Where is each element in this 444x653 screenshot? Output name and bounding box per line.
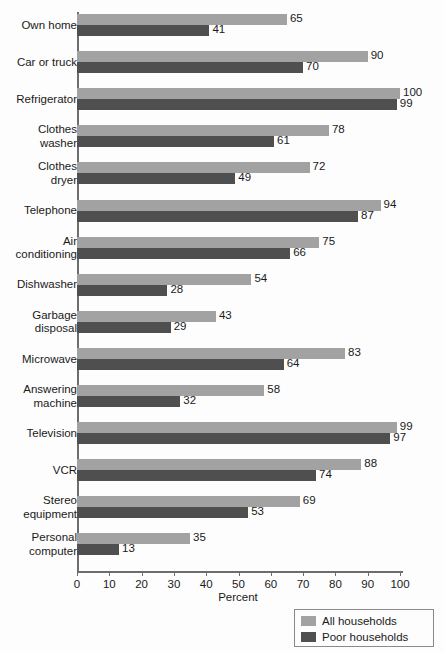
bar-value-label: 41	[212, 24, 225, 35]
bar-poor-households	[77, 99, 397, 110]
bar-value-label: 87	[361, 210, 374, 221]
x-tick-80	[335, 571, 336, 576]
bar-row: Clothes washer7861	[0, 125, 444, 147]
bar-row: Refrigerator10099	[0, 88, 444, 110]
category-label: Air conditioning	[16, 235, 77, 262]
bar-all-households	[77, 162, 310, 173]
bar-value-label: 75	[322, 236, 335, 247]
bar-value-label: 28	[170, 284, 183, 295]
bar-all-households	[77, 51, 368, 62]
legend-label-all-households: All households	[322, 615, 397, 627]
bar-poor-households	[77, 173, 235, 184]
category-label: Own home	[21, 19, 77, 33]
bar-all-households	[77, 14, 287, 25]
bar-poor-households	[77, 507, 248, 518]
x-tick-40	[206, 571, 207, 576]
bar-value-label: 94	[384, 199, 397, 210]
x-axis-line	[77, 571, 403, 573]
bar-all-households	[77, 88, 400, 99]
x-tick-label-0: 0	[74, 578, 80, 590]
bar-poor-households	[77, 322, 171, 333]
bar-value-label: 90	[371, 50, 384, 61]
bar-value-label: 61	[277, 135, 290, 146]
bar-poor-households	[77, 544, 119, 555]
category-label: Stereo equipment	[23, 494, 77, 521]
category-label: Clothes washer	[38, 123, 77, 150]
bar-value-label: 99	[400, 98, 413, 109]
bar-value-label: 88	[364, 458, 377, 469]
category-label: Garbage disposal	[32, 309, 77, 336]
bar-poor-households	[77, 359, 284, 370]
bar-row: Television9997	[0, 422, 444, 444]
bar-row: Clothes dryer7249	[0, 162, 444, 184]
bar-value-label: 58	[267, 384, 280, 395]
x-tick-20	[142, 571, 143, 576]
category-label: Clothes dryer	[38, 160, 77, 187]
x-tick-label-100: 100	[390, 578, 409, 590]
category-label: Personal computer	[29, 531, 77, 558]
bar-value-label: 69	[303, 495, 316, 506]
x-tick-0	[77, 571, 78, 576]
legend-item-poor-households: Poor households	[301, 629, 429, 645]
bar-chart: 0102030405060708090100 Percent Own home6…	[0, 0, 444, 653]
x-tick-label-60: 60	[264, 578, 277, 590]
bar-row: Dishwasher5428	[0, 274, 444, 296]
x-tick-10	[109, 571, 110, 576]
bar-poor-households	[77, 248, 290, 259]
x-tick-label-90: 90	[361, 578, 374, 590]
x-tick-60	[271, 571, 272, 576]
bar-poor-households	[77, 25, 209, 36]
bar-poor-households	[77, 211, 358, 222]
category-label: Television	[27, 427, 78, 441]
legend-swatch-all-households	[301, 616, 316, 626]
x-tick-label-10: 10	[103, 578, 116, 590]
x-tick-100	[400, 571, 401, 576]
bar-poor-households	[77, 62, 303, 73]
bar-row: Telephone9487	[0, 200, 444, 222]
bar-value-label: 29	[174, 321, 187, 332]
category-label: VCR	[53, 464, 77, 478]
x-tick-label-80: 80	[329, 578, 342, 590]
category-label: Dishwasher	[17, 278, 77, 292]
x-tick-90	[368, 571, 369, 576]
legend-swatch-poor-households	[301, 632, 316, 642]
x-tick-label-50: 50	[232, 578, 245, 590]
bar-value-label: 54	[254, 273, 267, 284]
bar-all-households	[77, 422, 397, 433]
bar-row: Own home6541	[0, 14, 444, 36]
bar-poor-households	[77, 470, 316, 481]
bar-row: VCR8874	[0, 459, 444, 481]
x-axis-title: Percent	[218, 591, 258, 603]
x-tick-70	[303, 571, 304, 576]
chart-legend: All households Poor households	[294, 609, 434, 647]
bar-all-households	[77, 274, 251, 285]
bar-row: Garbage disposal4329	[0, 311, 444, 333]
category-label: Telephone	[24, 204, 77, 218]
bar-row: Microwave8364	[0, 348, 444, 370]
bar-all-households	[77, 348, 345, 359]
bar-row: Stereo equipment6953	[0, 496, 444, 518]
bar-poor-households	[77, 136, 274, 147]
category-label: Refrigerator	[16, 93, 77, 107]
bar-value-label: 78	[332, 124, 345, 135]
bar-value-label: 35	[193, 532, 206, 543]
bar-value-label: 64	[287, 358, 300, 369]
bar-all-households	[77, 311, 216, 322]
bar-value-label: 66	[293, 247, 306, 258]
bar-value-label: 74	[319, 469, 332, 480]
category-label: Microwave	[22, 353, 77, 367]
bar-value-label: 53	[251, 506, 264, 517]
legend-item-all-households: All households	[301, 613, 429, 629]
bar-all-households	[77, 125, 329, 136]
bar-row: Air conditioning7566	[0, 237, 444, 259]
bar-value-label: 43	[219, 310, 232, 321]
bar-row: Car or truck9070	[0, 51, 444, 73]
bar-value-label: 65	[290, 13, 303, 24]
bar-value-label: 13	[122, 543, 135, 554]
category-label: Answering machine	[23, 383, 77, 410]
bar-all-households	[77, 385, 264, 396]
bar-poor-households	[77, 285, 167, 296]
x-tick-50	[239, 571, 240, 576]
bar-value-label: 72	[313, 161, 326, 172]
x-tick-30	[174, 571, 175, 576]
